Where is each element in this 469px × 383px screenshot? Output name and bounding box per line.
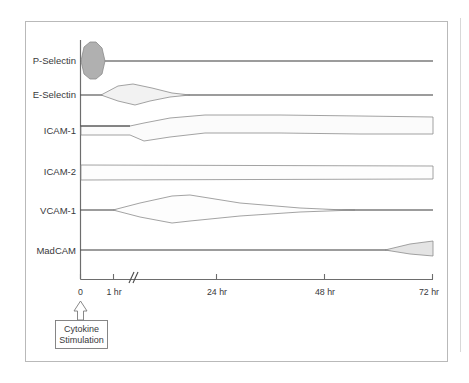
row-label-e-selectin: E-Selectin xyxy=(33,89,76,100)
row-label-group: P-Selectin E-Selectin ICAM-1 ICAM-2 VCAM… xyxy=(33,55,76,256)
x-axis-group: 0 1 hr 24 hr 48 hr 72 hr xyxy=(78,272,439,297)
x-tick-label-1hr: 1 hr xyxy=(106,287,121,297)
expression-band-e-selectin xyxy=(101,84,190,105)
row-label-vcam-1: VCAM-1 xyxy=(40,205,76,216)
series-madcam xyxy=(81,241,434,256)
row-label-icam-1: ICAM-1 xyxy=(44,125,76,136)
expression-band-madcam xyxy=(385,241,433,256)
figure-root: P-Selectin E-Selectin ICAM-1 ICAM-2 VCAM… xyxy=(0,0,469,383)
series-icam-2 xyxy=(81,165,433,180)
x-tick-label-72hr: 72 hr xyxy=(419,287,439,297)
adhesion-molecule-timeline-chart: P-Selectin E-Selectin ICAM-1 ICAM-2 VCAM… xyxy=(0,0,469,383)
x-tick-label-48hr: 48 hr xyxy=(315,287,335,297)
expression-band-vcam-1 xyxy=(113,195,355,223)
callout-line-1: Cytokine xyxy=(64,324,99,334)
series-vcam-1 xyxy=(81,195,434,223)
series-e-selectin xyxy=(81,84,434,105)
series-icam-1 xyxy=(81,115,434,141)
expression-band-p-selectin xyxy=(81,42,105,79)
expression-band-icam-2 xyxy=(81,165,433,180)
up-arrow-icon xyxy=(74,301,87,320)
x-tick-label-0: 0 xyxy=(78,287,83,297)
callout-line-2: Stimulation xyxy=(59,335,104,345)
expression-band-icam-1 xyxy=(81,115,433,141)
row-label-p-selectin: P-Selectin xyxy=(33,55,76,66)
cytokine-stimulation-callout: Cytokine Stimulation xyxy=(56,301,108,349)
row-label-icam-2: ICAM-2 xyxy=(44,166,76,177)
row-label-madcam: MadCAM xyxy=(36,245,76,256)
x-tick-label-24hr: 24 hr xyxy=(207,287,227,297)
series-p-selectin xyxy=(81,42,434,79)
axis-break-icon xyxy=(129,272,138,283)
